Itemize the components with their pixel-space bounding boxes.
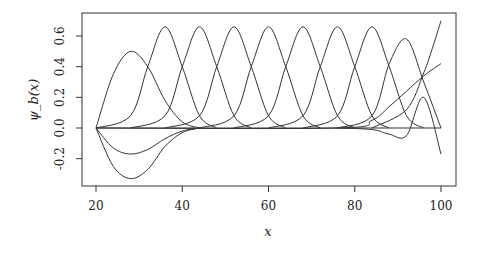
basis-curve-b4 — [165, 27, 286, 128]
y-tick-label: 0.4 — [53, 57, 67, 76]
basis-curve-b8 — [303, 27, 424, 128]
y-tick-label: -0.2 — [53, 147, 67, 170]
basis-curves — [96, 21, 441, 179]
x-tick-label: 20 — [88, 199, 103, 213]
y-tick-label: 0.0 — [53, 118, 67, 137]
x-tick-label: 100 — [430, 199, 453, 213]
basis-curve-b7 — [269, 27, 390, 128]
x-axis: 20406080100 — [88, 186, 452, 213]
x-axis-title: x — [264, 224, 272, 239]
basis-curve-b5 — [200, 27, 321, 128]
x-tick-label: 80 — [347, 199, 362, 213]
y-axis-title: ψ_b(x) — [26, 79, 41, 122]
basis-curve-b2 — [96, 27, 217, 128]
basis-curve-neg2 — [96, 128, 200, 179]
x-tick-label: 60 — [261, 199, 276, 213]
y-tick-label: 0.2 — [53, 88, 67, 107]
basis-curve-b6 — [234, 27, 355, 128]
basis-curve-b9 — [338, 39, 442, 128]
basis-curve-b3 — [131, 27, 252, 128]
y-axis: -0.20.00.20.40.6 — [53, 26, 82, 170]
basis-function-plot: 20406080100 -0.20.00.20.40.6 x ψ_b(x) — [0, 0, 478, 254]
basis-curve-b11 — [96, 64, 441, 129]
y-tick-label: 0.6 — [53, 26, 67, 45]
x-tick-label: 40 — [175, 199, 190, 213]
